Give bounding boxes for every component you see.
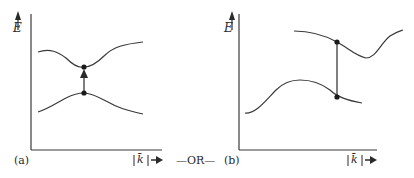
transition-arrowhead-a xyxy=(80,69,88,78)
x-axis-arrowhead-a xyxy=(156,156,163,164)
y-axis-arrowhead-b xyxy=(229,11,235,20)
point-conduction-b xyxy=(334,39,339,44)
y-axis-label-a: E xyxy=(13,22,22,34)
point-valence-max-a xyxy=(81,90,86,95)
panel-a xyxy=(15,11,163,166)
y-axis-arrowhead-a xyxy=(15,11,21,20)
x-axis-arrowhead-b xyxy=(370,156,377,164)
point-conduction-min-a xyxy=(81,64,86,69)
y-axis-label-b: E xyxy=(224,22,233,34)
point-valence-b xyxy=(334,94,339,99)
panel-label-b: (b) xyxy=(224,155,240,166)
panel-label-a: (a) xyxy=(14,155,29,166)
valence-band-a xyxy=(38,93,143,114)
valence-band-b xyxy=(245,80,362,113)
band-diagram xyxy=(0,0,414,178)
conduction-band-a xyxy=(38,42,143,67)
x-axis-label-a: k̄ xyxy=(137,154,144,165)
panel-b xyxy=(229,11,403,166)
separator-or: —OR— xyxy=(176,155,215,166)
conduction-band-b xyxy=(294,30,403,58)
x-axis-label-b: k̄ xyxy=(351,154,358,165)
